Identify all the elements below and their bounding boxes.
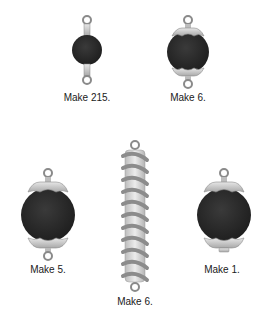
top-loop-icon	[220, 169, 228, 177]
label-large-capped-bead-link: Make 5.	[30, 264, 66, 275]
bead-icon	[197, 188, 251, 242]
headpin-end-icon	[219, 248, 229, 252]
capped-bead-link-illustration	[167, 16, 209, 88]
top-wire-icon	[84, 24, 90, 36]
small-bead-link-illustration	[72, 16, 102, 84]
spiral-tube-link-illustration	[123, 141, 147, 291]
label-capped-bead-link: Make 6.	[170, 92, 206, 103]
label-spiral-tube-link: Make 6.	[117, 296, 153, 307]
bottom-loop-icon	[184, 80, 192, 88]
large-capped-bead-dangle-illustration	[197, 169, 251, 252]
top-loop-icon	[83, 16, 91, 24]
bottom-wire-icon	[84, 64, 90, 76]
label-small-bead-link: Make 215.	[64, 92, 111, 103]
top-loop-icon	[184, 16, 192, 24]
label-large-capped-bead-dangle: Make 1.	[204, 264, 240, 275]
top-loop-icon	[44, 169, 52, 177]
large-capped-bead-link-illustration	[21, 169, 75, 260]
bead-icon	[21, 188, 75, 242]
bottom-loop-icon	[44, 252, 52, 260]
top-loop-icon	[131, 141, 139, 149]
bead-icon	[167, 31, 209, 73]
bottom-loop-icon	[131, 283, 139, 291]
bead-icon	[72, 35, 102, 65]
bottom-loop-icon	[83, 76, 91, 84]
